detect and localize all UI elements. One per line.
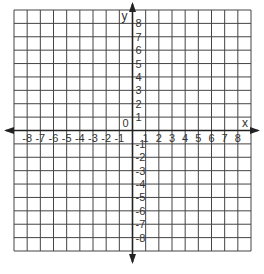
x-tick-label: -2 [101,132,111,144]
y-tick-label: -8 [136,232,146,244]
y-axis-up-arrow-icon [129,2,136,12]
y-tick-label: -7 [136,218,146,230]
x-tick-label: 4 [182,132,188,144]
x-axis-label: x [242,116,248,130]
y-tick-label: 5 [136,58,142,70]
origin-label: 0 [122,117,128,129]
y-tick-label: 6 [136,44,142,56]
y-tick-label: -1 [136,138,146,150]
y-tick-label: 7 [136,31,142,43]
coordinate-plane: -8-7-6-5-4-3-2-112345678-8-7-6-5-4-3-2-1… [0,0,264,274]
x-tick-label: 7 [222,132,228,144]
x-tick-label: 5 [195,132,201,144]
y-tick-label: 8 [136,17,142,29]
x-tick-label: -1 [114,132,124,144]
y-tick-label: 2 [136,98,142,110]
x-tick-label: 3 [169,132,175,144]
x-tick-label: -4 [75,132,85,144]
y-tick-label: 1 [136,111,142,123]
x-axis-left-arrow-icon [4,127,14,134]
y-tick-label: -3 [136,165,146,177]
x-tick-label: 8 [235,132,241,144]
y-axis-label: y [122,9,128,23]
x-axis-right-arrow-icon [250,127,260,134]
y-tick-label: 4 [136,71,142,83]
y-axis-down-arrow-icon [129,254,136,264]
y-tick-label: -4 [136,178,146,190]
x-tick-label: -7 [35,132,45,144]
x-tick-label: -6 [49,132,59,144]
y-tick-label: -5 [136,191,146,203]
y-tick-label: 3 [136,84,142,96]
x-tick-label: -3 [88,132,98,144]
x-tick-label: 6 [208,132,214,144]
x-tick-label: -8 [22,132,32,144]
y-tick-label: -2 [136,151,146,163]
x-tick-label: 2 [156,132,162,144]
x-tick-label: -5 [62,132,72,144]
y-tick-label: -6 [136,205,146,217]
